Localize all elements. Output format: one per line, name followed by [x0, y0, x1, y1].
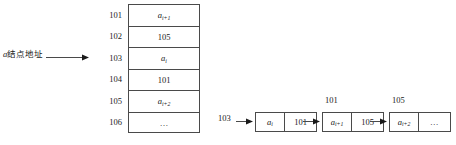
list-node-address-label: 101 [325, 96, 338, 105]
memory-cell-value: 105 [158, 33, 171, 42]
pointer-arrow-icon [46, 53, 90, 62]
memory-address-label: 103 [92, 47, 124, 69]
list-head-arrow-icon [236, 117, 254, 126]
list-link-arrow-icon [303, 117, 321, 126]
diagram-canvas: a结点地址 101 102 103 104 105 106 ai+1 105 a… [0, 0, 456, 145]
memory-cell: 101 [129, 70, 199, 92]
list-node: ai+2 … [389, 112, 451, 132]
memory-cell: 105 [129, 27, 199, 49]
memory-cell: ai [129, 48, 199, 70]
memory-cell: ai+1 [129, 5, 199, 27]
memory-address-label: 105 [92, 90, 124, 112]
memory-address-label: 102 [92, 26, 124, 48]
list-node-link: … [418, 113, 450, 131]
memory-cell: ai+2 [129, 91, 199, 113]
list-link-arrow-icon [370, 117, 388, 126]
memory-cell: … [129, 113, 199, 135]
memory-address-label: 106 [92, 112, 124, 134]
memory-cell-value: ai+2 [158, 97, 171, 106]
pointer-label-text: 结点地址 [7, 49, 43, 59]
memory-address-column: 101 102 103 104 105 106 [92, 4, 124, 133]
memory-cell-value: … [160, 119, 169, 128]
list-node-data: ai [256, 113, 284, 131]
memory-cell-value: ai [161, 54, 167, 63]
memory-address-label: 104 [92, 69, 124, 91]
list-node-data: ai+2 [390, 113, 418, 131]
list-head-address-label: 103 [218, 114, 231, 123]
memory-table: ai+1 105 ai 101 ai+2 … [128, 4, 200, 133]
memory-cell-value: 101 [158, 76, 171, 85]
memory-address-label: 101 [92, 4, 124, 26]
list-node-address-label: 105 [392, 96, 405, 105]
pointer-label: a结点地址 [3, 50, 43, 59]
list-node-data: ai+1 [323, 113, 351, 131]
memory-cell-value: ai+1 [158, 11, 171, 20]
